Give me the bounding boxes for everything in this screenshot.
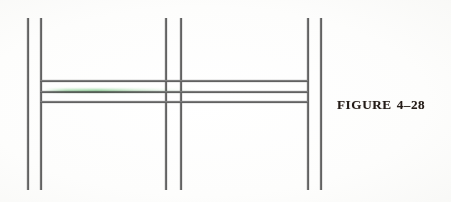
right-outer-vertical-line [320, 18, 322, 190]
figure-caption-label: FIGURE [337, 97, 392, 112]
figure-page: FIGURE4–28 [0, 0, 451, 202]
middle-horizontal-line [40, 91, 308, 93]
lower-horizontal-line [40, 101, 308, 103]
left-outer-vertical-line [27, 18, 29, 190]
middle-left-vertical-line [165, 18, 167, 190]
upper-horizontal-line [40, 80, 308, 82]
middle-right-vertical-line [180, 18, 182, 190]
figure-caption: FIGURE4–28 [337, 95, 425, 113]
left-inner-vertical-line [40, 18, 42, 190]
right-inner-vertical-line [307, 18, 309, 190]
figure-caption-number: 4–28 [397, 97, 426, 112]
